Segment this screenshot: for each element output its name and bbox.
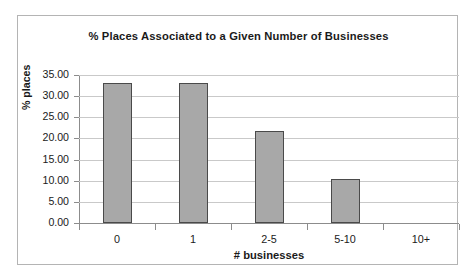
chart-frame: % Places Associated to a Given Number of… [17,15,458,265]
x-axis-tick [231,224,232,230]
y-axis-tick-label: 25.00 [25,111,69,122]
x-axis-tick [155,224,156,230]
chart-title: % Places Associated to a Given Number of… [18,30,459,42]
y-axis-tick-label: 0.00 [25,217,69,228]
bar [331,179,360,223]
y-axis-tick-label: 35.00 [25,69,69,80]
y-axis-tick-label: 5.00 [25,196,69,207]
x-axis-tick-label: 5-10 [307,234,383,245]
y-axis-tick-label: 15.00 [25,154,69,165]
gridline [79,96,459,97]
bar [103,83,132,223]
x-axis-tick-label: 10+ [383,234,459,245]
x-axis-title: # businesses [79,249,459,261]
x-axis-tick [307,224,308,230]
plot-area [79,75,459,223]
x-axis-tick-label: 0 [79,234,155,245]
bar [255,131,284,223]
x-axis-tick [383,224,384,230]
gridline [79,75,459,76]
bar [179,83,208,223]
axis-baseline [79,223,459,224]
y-axis-tick-label: 30.00 [25,90,69,101]
x-axis-tick [79,224,80,230]
x-axis-tick [459,224,460,230]
y-axis-tick-label: 10.00 [25,175,69,186]
x-axis-tick-label: 1 [155,234,231,245]
x-axis-tick-label: 2-5 [231,234,307,245]
y-axis-tick-label: 20.00 [25,132,69,143]
gridline [79,117,459,118]
